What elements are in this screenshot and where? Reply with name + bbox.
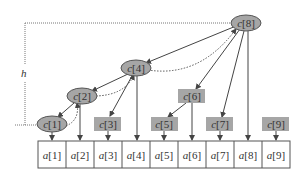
svg-text:c[8]: c[8] <box>237 17 255 29</box>
array-cell-6: a[6] <box>183 149 201 161</box>
array-cell-7: a[7] <box>211 149 229 161</box>
svg-text:c[3]: c[3] <box>99 118 117 130</box>
tree-nodes: c[1] c[2] c[3] c[4] c[5] c[6] c[7] c[8] <box>37 15 289 132</box>
array-cell-5: a[5] <box>155 149 173 161</box>
svg-text:c[6]: c[6] <box>183 90 201 102</box>
svg-text:c[7]: c[7] <box>211 118 229 130</box>
svg-text:c[4]: c[4] <box>127 62 145 74</box>
svg-text:c[5]: c[5] <box>155 118 173 130</box>
node-c2: c[2] <box>67 88 97 104</box>
array-cell-8: a[8] <box>239 149 257 161</box>
array-table: a[1] a[2] a[3] a[4] a[5] a[6] a[7] a[8] … <box>38 141 290 168</box>
node-c9: c[9] <box>262 117 289 131</box>
node-c7: c[7] <box>206 117 233 131</box>
svg-text:c[1]: c[1] <box>43 118 61 130</box>
node-c8: c[8] <box>231 15 261 31</box>
array-cell-2: a[2] <box>71 149 89 161</box>
height-label: h <box>21 67 27 79</box>
array-cell-1: a[1] <box>43 149 61 161</box>
node-c4: c[4] <box>121 60 151 76</box>
node-c5: c[5] <box>151 117 178 131</box>
node-c6: c[6] <box>178 89 205 103</box>
array-cell-3: a[3] <box>99 149 117 161</box>
array-cell-4: a[4] <box>127 149 145 161</box>
node-c1: c[1] <box>37 116 67 132</box>
height-indicator: h <box>15 23 230 125</box>
svg-text:c[2]: c[2] <box>73 90 91 102</box>
update-path <box>66 29 236 126</box>
node-c3: c[3] <box>94 117 121 131</box>
fenwick-tree-diagram: h c[1] c[2] <box>0 0 302 172</box>
array-cell-9: a[9] <box>267 149 285 161</box>
svg-text:c[9]: c[9] <box>267 118 285 130</box>
